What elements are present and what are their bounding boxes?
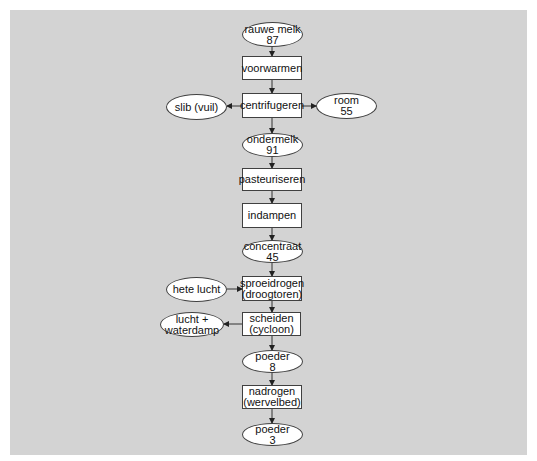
node-poeder-8: poeder8 bbox=[242, 350, 303, 373]
node-value: 87 bbox=[244, 35, 300, 46]
node-label: indampen bbox=[248, 210, 296, 221]
node-scheiden: scheiden(cycloon) bbox=[242, 312, 301, 336]
node-concentraat: concentraat45 bbox=[242, 240, 303, 263]
node-sublabel: waterdamp bbox=[165, 325, 219, 336]
node-pasteuriseren: pasteuriseren bbox=[242, 168, 302, 191]
node-label: rauwe melk bbox=[244, 24, 300, 35]
node-indampen: indampen bbox=[242, 203, 302, 228]
node-nadrogen: nadrogen(wervelbed) bbox=[242, 385, 302, 409]
node-sublabel: (cycloon) bbox=[249, 324, 294, 335]
node-voorwarmen: voorwarmen bbox=[242, 56, 302, 80]
node-label: centrifugeren bbox=[240, 100, 304, 111]
node-label: poeder bbox=[255, 351, 289, 362]
node-centrifugeren: centrifugeren bbox=[242, 93, 302, 118]
node-label: slib (vuil) bbox=[175, 102, 218, 113]
node-rauwe-melk: rauwe melk87 bbox=[242, 22, 303, 47]
node-label: voorwarmen bbox=[242, 63, 303, 74]
node-label: lucht + bbox=[165, 314, 219, 325]
node-label: pasteuriseren bbox=[239, 174, 306, 185]
node-hete-lucht: hete lucht bbox=[166, 277, 227, 302]
node-label: concentraat bbox=[244, 241, 301, 252]
node-poeder-3: poeder3 bbox=[242, 423, 303, 446]
node-value: 8 bbox=[255, 362, 289, 373]
node-value: 55 bbox=[334, 106, 359, 117]
node-sublabel: (wervelbed) bbox=[243, 397, 300, 408]
node-room: room55 bbox=[316, 93, 377, 119]
node-lucht-waterdamp: lucht +waterdamp bbox=[160, 312, 224, 337]
node-sublabel: (droogtoren) bbox=[240, 289, 304, 300]
node-value: 91 bbox=[247, 145, 298, 156]
node-sproeidrogen: sproeidrogen(droogtoren) bbox=[242, 276, 302, 301]
node-value: 3 bbox=[255, 435, 289, 446]
node-slib: slib (vuil) bbox=[166, 94, 227, 120]
node-value: 45 bbox=[244, 252, 301, 263]
node-ondermelk: ondermelk91 bbox=[242, 133, 303, 157]
node-label: hete lucht bbox=[173, 284, 221, 295]
node-label: poeder bbox=[255, 424, 289, 435]
node-label: sproeidrogen bbox=[240, 278, 304, 289]
